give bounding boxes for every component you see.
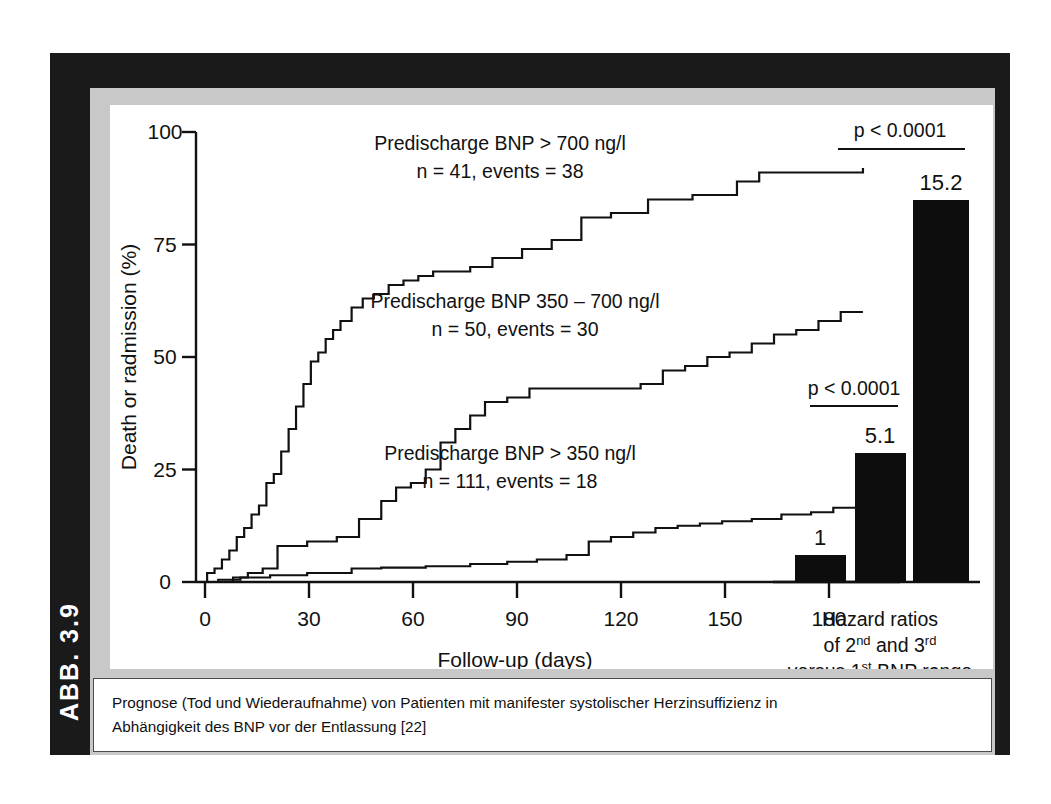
plot-canvas: 100 75 50 25 0 0 30 60 90 120 xyxy=(110,105,993,669)
km-annotation-bnp-350-700: Predischarge BNP 350 – 700 ng/l n = 50, … xyxy=(370,290,659,340)
pvalue-label: p < 0.0001 xyxy=(854,119,947,141)
hazard-caption-line2: of 2nd and 3rd xyxy=(824,633,937,656)
y-axis-tick-labels: 100 75 50 25 0 xyxy=(147,120,182,593)
hazard-caption-line1: Hazard ratios xyxy=(822,608,938,630)
km-annotation-bnp-gt-350: Predischarge BNP > 350 ng/l n = 111, eve… xyxy=(384,442,636,492)
x-tick-label: 150 xyxy=(707,607,742,630)
y-axis-ticks xyxy=(182,132,196,582)
hazard-bar-value-3: 15.2 xyxy=(920,170,963,195)
x-tick-label: 30 xyxy=(297,607,320,630)
hazard-caption-line2-pre: of 2 xyxy=(824,634,857,656)
x-axis-title: Follow-up (days) xyxy=(437,648,592,669)
figure-number-label: ABB. 3.9 xyxy=(47,572,91,752)
x-tick-label: 60 xyxy=(401,607,424,630)
y-tick-label: 0 xyxy=(159,570,171,593)
km-curve-bnp-gt-350 xyxy=(196,508,863,582)
pvalue-annotation-upper: p < 0.0001 xyxy=(838,119,965,149)
hazard-caption-line2-mid: and 3 xyxy=(871,634,925,656)
x-tick-label: 0 xyxy=(199,607,211,630)
pvalue-label: p < 0.0001 xyxy=(808,377,901,399)
figure-caption-band: Prognose (Tod und Wiederaufnahme) von Pa… xyxy=(93,678,992,752)
hazard-caption-line2-sup1: nd xyxy=(856,633,870,648)
figure-caption-line-1: Prognose (Tod und Wiederaufnahme) von Pa… xyxy=(112,691,975,715)
curve-label-line2: n = 50, events = 30 xyxy=(432,318,599,340)
curve-label-line1: Predischarge BNP > 350 ng/l xyxy=(384,442,636,464)
y-tick-label: 75 xyxy=(153,233,176,256)
curve-label-line1: Predischarge BNP > 700 ng/l xyxy=(374,132,626,154)
x-axis-ticks xyxy=(205,582,829,598)
figure-caption-line-2: Abhängigkeit des BNP vor der Entlassung … xyxy=(112,715,975,739)
curve-label-line1: Predischarge BNP 350 – 700 ng/l xyxy=(370,290,659,312)
y-tick-label: 50 xyxy=(153,345,176,368)
x-tick-label: 90 xyxy=(505,607,528,630)
hazard-caption-line3-pre: versus 1 xyxy=(788,660,862,669)
hazard-bar-value-2: 5.1 xyxy=(865,423,896,448)
chart-svg: 100 75 50 25 0 0 30 60 90 120 xyxy=(110,105,993,669)
hazard-bar-3 xyxy=(913,200,969,582)
curve-label-line2: n = 111, events = 18 xyxy=(423,470,598,492)
km-annotation-bnp-gt-700: Predischarge BNP > 700 ng/l n = 41, even… xyxy=(374,132,626,182)
y-tick-label: 25 xyxy=(153,458,176,481)
pvalue-annotation-lower: p < 0.0001 xyxy=(808,377,901,406)
hazard-bar-value-1: 1 xyxy=(814,525,826,550)
x-axis-tick-labels: 0 30 60 90 120 150 180 xyxy=(199,607,846,630)
hazard-caption-line3-sup: st xyxy=(862,659,873,669)
x-tick-label: 120 xyxy=(603,607,638,630)
hazard-caption-line2-sup2: rd xyxy=(925,633,937,648)
hazard-caption-line3-post: BNP range xyxy=(872,660,972,669)
curve-label-line2: n = 41, events = 38 xyxy=(417,160,584,182)
hazard-bar-2 xyxy=(855,453,906,582)
y-axis-title: Death or radmission (%) xyxy=(117,244,140,470)
km-plot-group: 100 75 50 25 0 0 30 60 90 120 xyxy=(117,120,900,669)
hazard-caption-line3: versus 1st BNP range xyxy=(788,659,972,669)
hazard-bar-1 xyxy=(795,555,846,582)
hazard-ratio-plot-group: 1 5.1 15.2 p < 0.0001 p < 0.0001 Hazard … xyxy=(773,119,980,669)
y-tick-label: 100 xyxy=(147,120,182,143)
